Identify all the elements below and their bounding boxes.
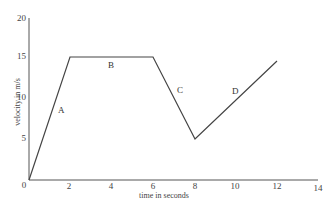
x-tick-10: 10 <box>231 181 241 191</box>
velocity-time-chart: 20 15 10 5 0 2 4 6 8 10 12 14 time in se… <box>0 0 330 207</box>
y-axis-title: velocity in m/s <box>13 78 22 126</box>
y-tick-5: 5 <box>22 133 27 143</box>
segment-label-c: C <box>177 85 183 95</box>
y-tick-20: 20 <box>17 13 27 23</box>
segment-label-b: B <box>108 60 114 70</box>
x-tick-2: 2 <box>67 181 72 191</box>
velocity-line <box>29 57 277 180</box>
y-tick-15: 15 <box>17 51 27 61</box>
segment-label-a: A <box>58 105 65 115</box>
x-tick-14: 14 <box>314 183 324 193</box>
x-tick-8: 8 <box>193 181 198 191</box>
segment-label-d: D <box>232 86 239 96</box>
x-tick-6: 6 <box>151 181 156 191</box>
x-tick-12: 12 <box>273 181 282 191</box>
x-tick-4: 4 <box>109 181 114 191</box>
x-axis-title: time in seconds <box>139 191 189 200</box>
x-tick-0: 0 <box>22 180 27 190</box>
